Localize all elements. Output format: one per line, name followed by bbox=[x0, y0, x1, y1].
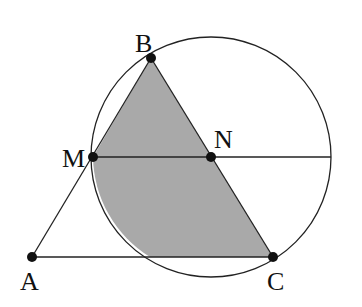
label-c: C bbox=[267, 267, 284, 296]
label-n: N bbox=[214, 125, 233, 154]
point-m bbox=[88, 152, 98, 162]
diagram-canvas: A B C M N bbox=[0, 0, 362, 307]
label-m: M bbox=[62, 144, 85, 173]
point-a bbox=[27, 252, 37, 262]
point-c bbox=[268, 252, 278, 262]
label-b: B bbox=[135, 29, 152, 58]
geometry-diagram: A B C M N bbox=[0, 0, 362, 307]
label-a: A bbox=[20, 267, 39, 296]
